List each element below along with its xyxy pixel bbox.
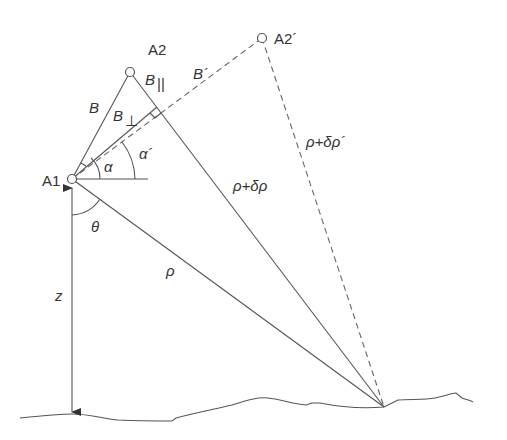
- label-b-perp: B: [113, 107, 123, 124]
- label-alpha: α: [104, 158, 113, 175]
- baseline-b-prime-line: [72, 38, 262, 179]
- alpha-prime-arc: [122, 142, 135, 179]
- label-alpha-prime: α´: [139, 145, 153, 162]
- label-a1: A1: [42, 172, 60, 189]
- label-theta: θ: [91, 218, 99, 235]
- a2-prime-node: [258, 34, 267, 43]
- label-b-perp-sub: ⊥: [125, 112, 138, 129]
- label-a2: A2: [148, 41, 166, 58]
- ground-surface-line: [20, 393, 473, 421]
- a1-node: [68, 175, 77, 184]
- a2-node: [126, 68, 135, 77]
- range-rho-line: [72, 179, 384, 407]
- label-b-parallel-sub: ||: [157, 75, 165, 92]
- label-z: z: [54, 287, 63, 304]
- label-b: B: [89, 99, 99, 116]
- range-rho-delta-line: [130, 72, 384, 407]
- label-b-prime: B´: [193, 65, 208, 82]
- range-rho-delta-prime-line: [262, 38, 384, 407]
- right-angle-marker: [150, 113, 161, 118]
- label-rho-delta: ρ+δρ: [232, 177, 268, 194]
- alpha-small-arc: [80, 163, 86, 166]
- label-b-parallel: B: [145, 71, 155, 88]
- insar-geometry-diagram: A1 A2 A2´ B B || B ⊥ B´ α α´ θ ρ ρ+δρ ρ+…: [0, 0, 507, 440]
- label-rho: ρ: [165, 262, 175, 279]
- theta-arc: [72, 199, 100, 215]
- label-rho-delta-prime: ρ+δρ´: [305, 133, 345, 150]
- label-a2-prime: A2´: [274, 30, 297, 47]
